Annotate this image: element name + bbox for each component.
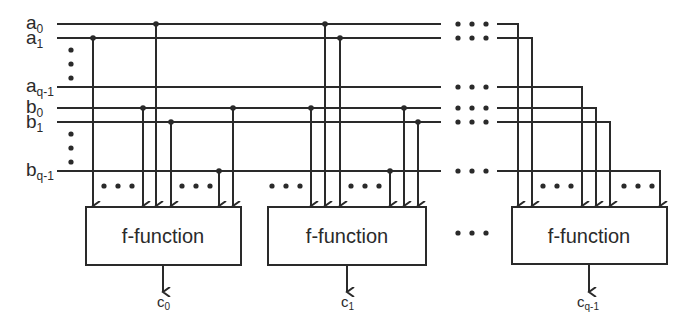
input-bus-lines	[57, 24, 441, 171]
output-label-c0: c0	[157, 293, 171, 312]
f-function-label-1: f-function	[306, 225, 388, 247]
input-labels: a0 a1 aq-1 b0 b1 bq-1	[26, 12, 54, 183]
f-function-block-q-1: f-function cq-1	[497, 24, 667, 312]
f-function-block-0: f-function c0	[86, 21, 241, 312]
output-label-cq-1: cq-1	[577, 293, 599, 312]
f-function-label-0: f-function	[122, 225, 204, 247]
f-function-network-diagram: a0 a1 aq-1 b0 b1 bq-1	[0, 0, 695, 332]
bus-ellipsis	[455, 21, 488, 235]
input-label-bq-1: bq-1	[26, 159, 54, 183]
output-label-c1: c1	[341, 293, 355, 312]
f-function-block-1: f-function c1	[268, 21, 426, 312]
vertical-ellipsis-b	[68, 131, 73, 164]
f-function-label-q-1: f-function	[548, 225, 630, 247]
vertical-ellipsis-a	[68, 47, 73, 80]
